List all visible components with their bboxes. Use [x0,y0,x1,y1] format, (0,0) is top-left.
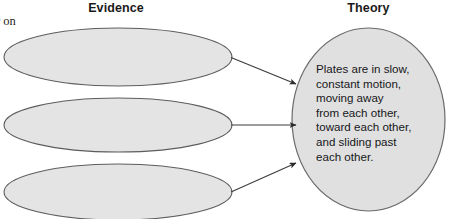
evidence-ellipse-3 [4,164,232,219]
connector-arrow-1 [231,58,296,85]
theory-circle-text: Plates are in slow, constant motion, mov… [316,62,442,164]
evidence-ellipse-2 [4,98,232,152]
evidence-theory-diagram: r on Evidence Theory Plates are in slow,… [0,0,452,219]
connector-arrow-3 [231,163,296,192]
evidence-ellipse-1 [4,28,232,86]
